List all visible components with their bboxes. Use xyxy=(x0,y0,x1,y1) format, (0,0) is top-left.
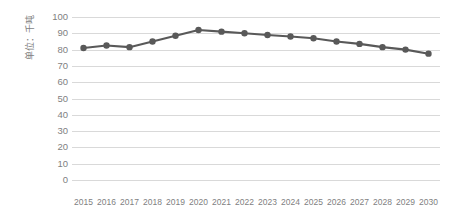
y-axis-tick-label: 30 xyxy=(38,126,68,136)
data-point-marker xyxy=(310,35,316,41)
y-axis-tick-label: 40 xyxy=(38,110,68,120)
y-axis-tick-label: 20 xyxy=(38,142,68,152)
data-point-marker xyxy=(425,50,431,56)
y-axis-tick-label: 60 xyxy=(38,77,68,87)
series-line-group xyxy=(72,17,440,180)
data-point-marker xyxy=(80,45,86,51)
series-markers xyxy=(80,27,431,57)
data-point-marker xyxy=(333,38,339,44)
data-point-marker xyxy=(172,33,178,39)
y-axis-tick-labels: 1009080706050403020100 xyxy=(38,0,68,200)
x-axis-tick-label: 2030 xyxy=(412,196,446,208)
plot-area xyxy=(72,17,440,180)
y-axis-tick-label: 50 xyxy=(38,94,68,104)
y-axis-tick-label: 90 xyxy=(38,28,68,38)
y-axis-tick-label: 100 xyxy=(38,12,68,22)
y-axis-tick-label: 80 xyxy=(38,45,68,55)
data-point-marker xyxy=(149,38,155,44)
data-point-marker xyxy=(195,27,201,33)
y-axis-tick-label: 10 xyxy=(38,159,68,169)
x-axis-tick-labels: 2015201620172018201920202021202220232024… xyxy=(72,196,440,210)
data-point-marker xyxy=(218,28,224,34)
series-line xyxy=(84,30,429,54)
data-point-marker xyxy=(379,44,385,50)
data-point-marker xyxy=(402,46,408,52)
data-point-marker xyxy=(264,32,270,38)
data-point-marker xyxy=(241,30,247,36)
data-point-marker xyxy=(287,33,293,39)
y-axis-title: 单位：千吨 xyxy=(22,0,38,60)
data-point-marker xyxy=(126,44,132,50)
y-axis-tick-label: 70 xyxy=(38,61,68,71)
gridline xyxy=(72,180,440,181)
data-point-marker xyxy=(103,42,109,48)
y-axis-tick-label: 0 xyxy=(38,175,68,185)
line-chart: 单位：千吨 1009080706050403020100 20152016201… xyxy=(0,0,455,220)
data-point-marker xyxy=(356,41,362,47)
